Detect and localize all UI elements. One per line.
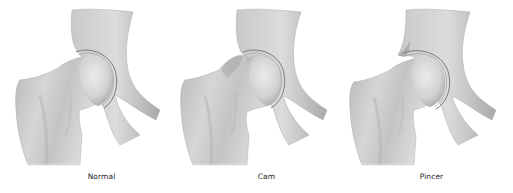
panel-pincer-hip: Pincer [342, 0, 513, 193]
panel-normal-hip: Normal [0, 0, 171, 193]
caption-cam: Cam [181, 172, 352, 181]
cam-hip-illustration [171, 0, 342, 170]
hip-impingement-figure: Normal [0, 0, 513, 193]
caption-normal: Normal [16, 172, 187, 181]
panel-cam-hip: Cam [171, 0, 342, 193]
pincer-hip-illustration [342, 0, 513, 170]
caption-pincer: Pincer [346, 172, 513, 181]
normal-hip-illustration [0, 0, 171, 170]
